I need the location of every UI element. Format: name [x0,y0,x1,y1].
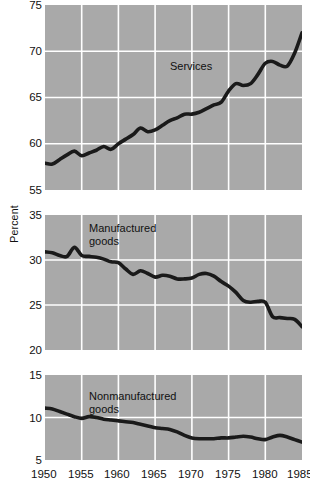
y-tick-services-70: 70 [20,46,42,57]
y-tick-nonmanufactured-15: 15 [20,370,42,381]
series-annotation-nonmanufactured-goods: Nonmanufactured goods [89,390,176,415]
y-tick-services-55: 55 [20,185,42,196]
y-tick-manufactured-25: 25 [20,300,42,311]
y-tick-manufactured-30: 30 [20,255,42,266]
x-tick-1955: 1955 [68,468,94,480]
x-tick-1975: 1975 [215,468,241,480]
y-tick-nonmanufactured-10: 10 [20,413,42,424]
y-tick-manufactured-35: 35 [20,210,42,221]
y-tick-services-60: 60 [20,138,42,149]
y-tick-services-75: 75 [20,0,42,11]
x-tick-1980: 1980 [252,468,278,480]
x-tick-1985: 1985 [287,468,310,480]
percent-line-chart-figure: Percent [0,0,310,486]
x-tick-1960: 1960 [104,468,130,480]
panel-services [45,5,302,190]
x-tick-1965: 1965 [141,468,167,480]
panel-nonmanufactured-goods [45,375,302,460]
series-annotation-manufactured-goods: Manufactured goods [89,222,156,247]
y-tick-nonmanufactured-5: 5 [20,455,42,466]
panel-manufactured-goods [45,215,302,350]
x-tick-1950: 1950 [31,468,57,480]
y-tick-manufactured-20: 20 [20,345,42,356]
x-tick-1970: 1970 [178,468,204,480]
series-annotation-services: Services [170,60,212,73]
y-tick-services-65: 65 [20,92,42,103]
